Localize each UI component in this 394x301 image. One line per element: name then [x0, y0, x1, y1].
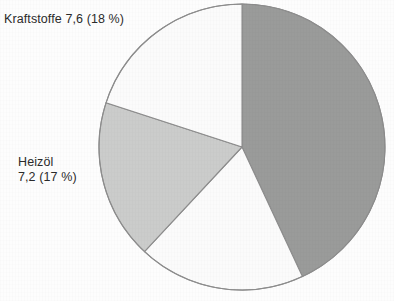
pie-svg	[0, 0, 394, 301]
slice-label-kraftstoffe-text: Kraftstoffe 7,6 (18 %)	[4, 12, 124, 26]
slice-label-heizoel-value: 7,2 (17 %)	[18, 170, 77, 185]
pie-chart-page: Kraftstoffe 7,6 (18 %) Heizöl 7,2 (17 %)	[0, 0, 394, 301]
slice-label-heizoel: Heizöl 7,2 (17 %)	[18, 155, 77, 185]
slice-label-kraftstoffe: Kraftstoffe 7,6 (18 %)	[4, 12, 124, 27]
pie-slices	[99, 4, 385, 290]
pie-chart: Kraftstoffe 7,6 (18 %) Heizöl 7,2 (17 %)	[0, 0, 394, 301]
slice-label-heizoel-name: Heizöl	[18, 155, 53, 169]
